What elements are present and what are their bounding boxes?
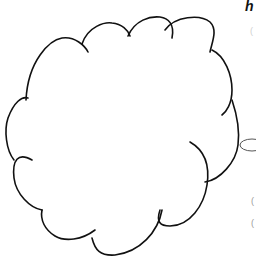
cropped-title-glyph: h	[245, 0, 254, 14]
illustration-canvas: h ( ( (	[0, 0, 256, 261]
faint-mark: (	[250, 26, 253, 36]
faint-mark: (	[251, 218, 254, 228]
cloud-thought-bubble-icon	[0, 0, 256, 261]
faint-mark: (	[251, 196, 254, 206]
